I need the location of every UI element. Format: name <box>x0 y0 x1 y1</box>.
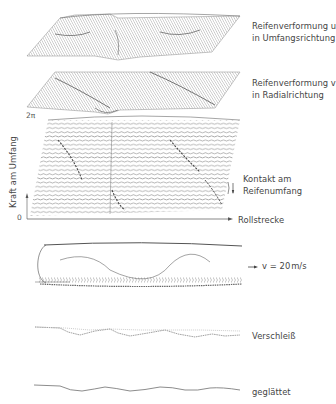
speed-unit: m/s <box>291 261 307 271</box>
force-waterfall-plot <box>26 116 240 221</box>
y-axis-arrow-icon <box>26 193 29 198</box>
y-axis-label: Kraft am Umfang <box>8 136 18 208</box>
x-axis-label: Rollstrecke <box>238 215 284 226</box>
deformation-u-label-line1: Reifenverformung u <box>252 21 336 32</box>
smoothed-label: geglättet <box>252 387 291 398</box>
speed-label: v = 20 m/s <box>262 261 307 272</box>
wear-profile <box>35 327 240 337</box>
deformation-v-label-line1: Reifenverformung v <box>252 78 336 89</box>
contact-annotation-line1: Kontakt am <box>243 174 292 185</box>
y-axis-top-tick: 2π <box>26 111 35 120</box>
contact-annotation-line2: Reifenumfang <box>243 186 302 197</box>
wear-label: Verschleiß <box>252 331 296 342</box>
deformation-u-surface <box>27 13 240 60</box>
speed-value: v = 20 <box>262 261 290 271</box>
x-axis-arrow-icon <box>228 217 233 220</box>
contact-arrow-icon <box>228 182 229 194</box>
deformation-u-label-line2: in Umfangsrichtung <box>252 33 335 44</box>
y-axis-bottom-tick: 0 <box>17 213 22 222</box>
smoothed-profile <box>34 385 240 391</box>
deformation-v-surface <box>27 72 240 114</box>
deformation-v-label-line2: in Radialrichtung <box>252 90 324 101</box>
rolling-tire-trace <box>35 243 258 287</box>
